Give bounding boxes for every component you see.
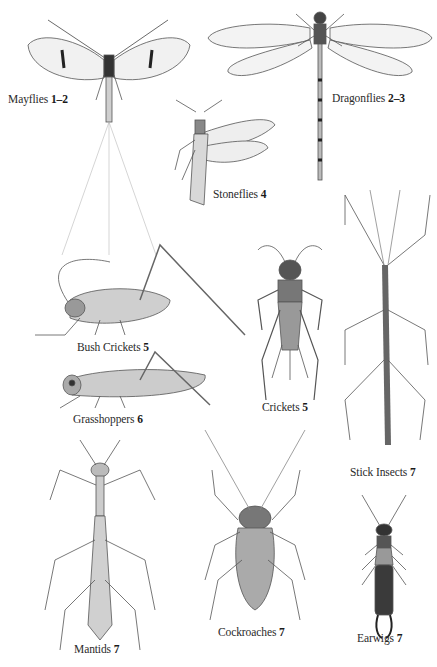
grasshopper-illustration <box>60 352 210 408</box>
earwig-illustration <box>362 495 406 638</box>
label-cockroaches: Cockroaches 7 <box>218 626 285 638</box>
cockroach-illustration <box>205 430 305 620</box>
mantis-illustration <box>45 440 155 650</box>
insect-plate: Mayflies 1–2 Dragonflies 2–3 Stoneflies … <box>0 0 437 667</box>
label-crickets: Crickets 5 <box>262 401 308 413</box>
label-mayflies: Mayflies 1–2 <box>8 93 68 105</box>
label-bush-crickets: Bush Crickets 5 <box>77 341 149 353</box>
stick-insect-illustration <box>345 190 430 445</box>
cricket-illustration <box>258 246 322 400</box>
label-stoneflies: Stoneflies 4 <box>213 188 266 200</box>
mayfly-illustration <box>28 20 190 255</box>
label-mantids: Mantids 7 <box>74 643 119 655</box>
label-grasshoppers: Grasshoppers 6 <box>73 413 143 425</box>
label-stick-insects: Stick Insects 7 <box>350 466 416 478</box>
label-earwigs: Earwigs 7 <box>357 632 402 644</box>
label-dragonflies: Dragonflies 2–3 <box>332 92 405 104</box>
bush-cricket-illustration <box>35 245 245 335</box>
